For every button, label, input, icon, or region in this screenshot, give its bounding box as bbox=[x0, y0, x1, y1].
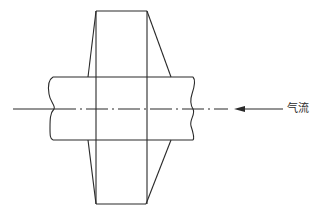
disc-right-lower-slant bbox=[146, 140, 171, 204]
shaft-disc-diagram bbox=[0, 0, 319, 221]
disc-left-lower-slant bbox=[88, 140, 96, 204]
airflow-arrow bbox=[234, 106, 283, 112]
disc-left-upper-slant bbox=[88, 11, 96, 77]
airflow-label: 气流 bbox=[287, 103, 309, 115]
disc bbox=[88, 11, 171, 204]
arrowhead-left-icon bbox=[234, 106, 245, 112]
disc-right-upper-slant bbox=[147, 11, 171, 77]
